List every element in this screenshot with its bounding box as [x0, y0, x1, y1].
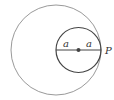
label-left-radius: a — [63, 38, 69, 49]
center-dot — [77, 48, 81, 52]
label-tangent-point: P — [104, 45, 112, 56]
label-right-radius: a — [86, 38, 92, 49]
tangent-circles-diagram: a a P — [0, 0, 114, 100]
